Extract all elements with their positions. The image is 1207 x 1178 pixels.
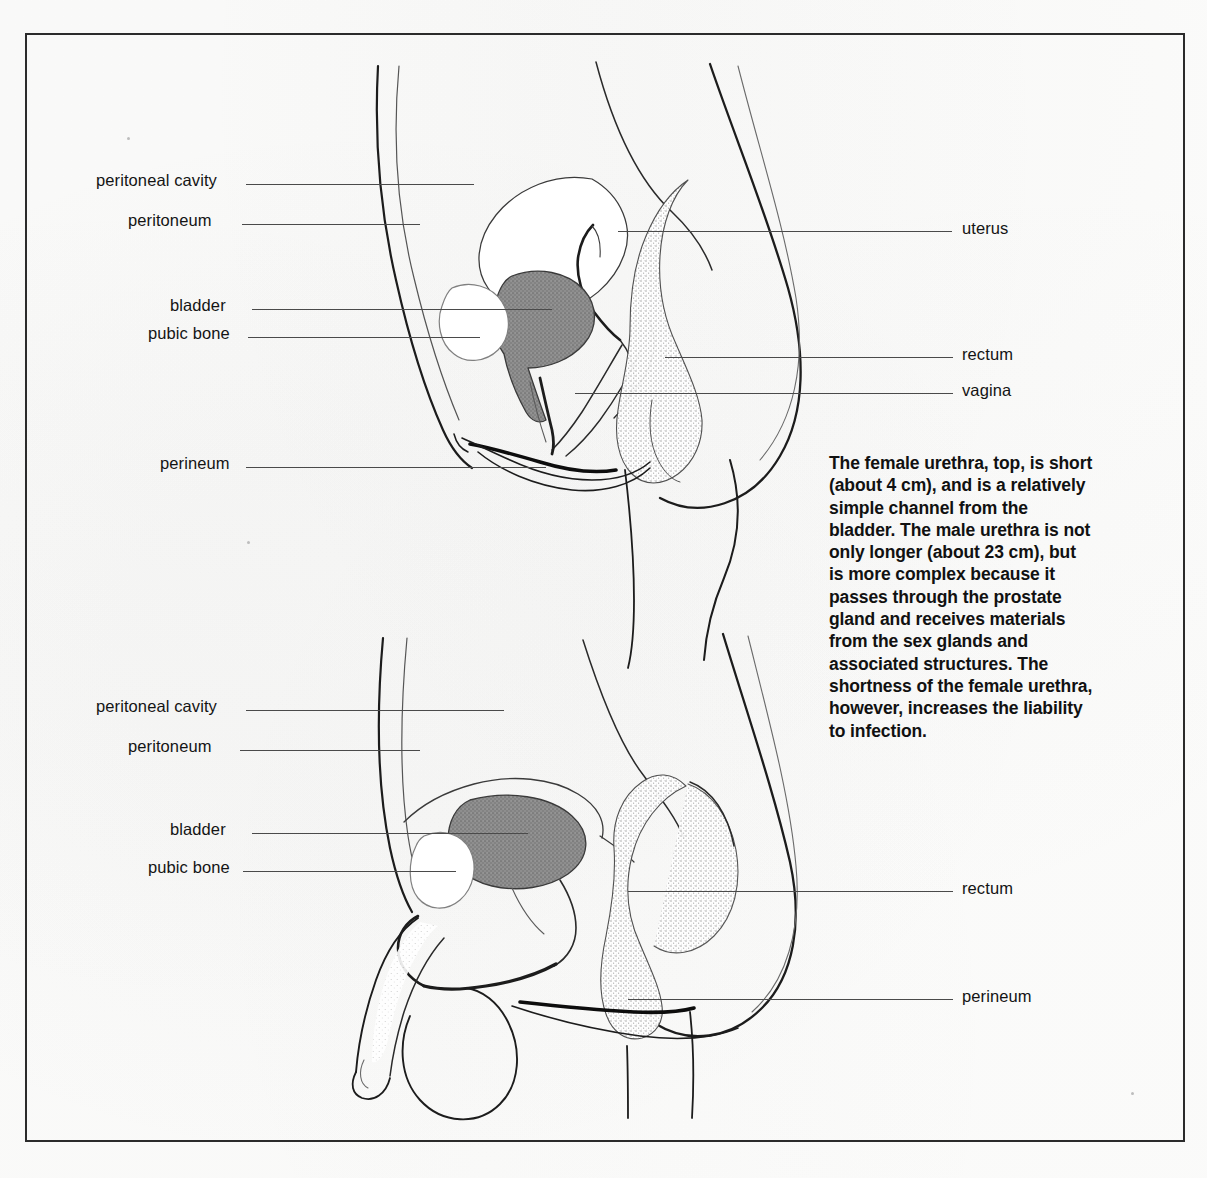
label-uterus: uterus <box>962 220 1008 237</box>
diagram-page: peritoneal cavity peritoneum bladder pub… <box>0 0 1207 1178</box>
leader-pubic-bone-male <box>243 871 456 872</box>
label-peritoneum-female: peritoneum <box>128 212 212 229</box>
caption-line: to infection. <box>829 720 1149 742</box>
caption-line: The female urethra, top, is short <box>829 452 1149 474</box>
leader-rectum-male <box>628 891 953 892</box>
leader-peritoneal-cavity-male <box>246 710 504 711</box>
caption-line: (about 4 cm), and is a relatively <box>829 474 1149 496</box>
caption-line: from the sex glands and <box>829 630 1149 652</box>
leader-peritoneal-cavity-female <box>246 184 474 185</box>
leader-bladder-female <box>252 309 552 310</box>
caption-line: gland and receives materials <box>829 608 1149 630</box>
caption-line: only longer (about 23 cm), but <box>829 541 1149 563</box>
caption-line: however, increases the liability <box>829 697 1149 719</box>
leader-pubic-bone-female <box>248 337 480 338</box>
leader-rectum-female <box>665 357 953 358</box>
leader-peritoneum-female <box>242 224 420 225</box>
caption-line: associated structures. The <box>829 653 1149 675</box>
leader-bladder-male <box>252 833 528 834</box>
caption-line: is more complex because it <box>829 563 1149 585</box>
label-peritoneal-cavity-male: peritoneal cavity <box>96 698 217 715</box>
leader-perineum-male <box>628 999 953 1000</box>
label-peritoneal-cavity-female: peritoneal cavity <box>96 172 217 189</box>
label-rectum-female: rectum <box>962 346 1013 363</box>
label-rectum-male: rectum <box>962 880 1013 897</box>
label-peritoneum-male: peritoneum <box>128 738 212 755</box>
figure-caption: The female urethra, top, is short (about… <box>829 452 1149 742</box>
label-vagina: vagina <box>962 382 1011 399</box>
label-perineum-male: perineum <box>962 988 1032 1005</box>
label-bladder-female: bladder <box>170 297 226 314</box>
caption-line: passes through the prostate <box>829 586 1149 608</box>
label-bladder-male: bladder <box>170 821 226 838</box>
leader-uterus <box>618 231 952 232</box>
caption-line: bladder. The male urethra is not <box>829 519 1149 541</box>
leader-vagina <box>575 393 953 394</box>
caption-line: shortness of the female urethra, <box>829 675 1149 697</box>
caption-line: simple channel from the <box>829 497 1149 519</box>
leader-peritoneum-male <box>240 750 420 751</box>
label-pubic-bone-female: pubic bone <box>148 325 230 342</box>
leader-perineum-female <box>246 467 546 468</box>
label-pubic-bone-male: pubic bone <box>148 859 230 876</box>
label-perineum-female: perineum <box>160 455 230 472</box>
